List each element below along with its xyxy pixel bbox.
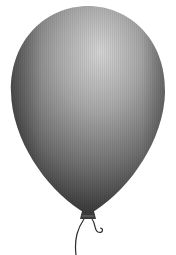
image-canvas: [0, 0, 176, 255]
balloon-string: [75, 219, 102, 255]
balloon-illustration: [0, 0, 176, 255]
balloon-body: [11, 6, 165, 212]
balloon-knot: [80, 211, 96, 219]
